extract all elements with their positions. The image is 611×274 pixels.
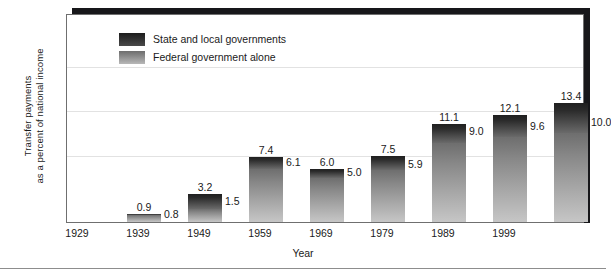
bar-1929 [127,214,161,222]
x-tick-label-1999: 1999 [474,227,534,239]
bar-segment-federal-1999 [554,133,588,222]
bar-total-label-1949: 7.4 [236,144,296,156]
bars-layer: 0.9 0.8 3.2 1.5 7.4 6.1 6.0 5.0 [67,15,583,222]
bar-segment-state-1949 [249,157,283,169]
x-tick-label-1929: 1929 [47,227,107,239]
bar-segment-federal-1949 [249,169,283,222]
x-tick-label-1969: 1969 [291,227,351,239]
x-tick-label-1979: 1979 [352,227,412,239]
y-axis-title-line2: as a percent of national income [34,26,46,206]
bar-segment-state-1969 [371,156,405,170]
x-tick-label-1989: 1989 [413,227,473,239]
bar-federal-label-1969: 5.9 [408,158,423,170]
x-axis-title: Year [0,247,606,259]
bar-1959 [310,169,344,222]
bar-1969 [371,156,405,222]
bar-segment-state-1979 [432,124,466,143]
bar-segment-state-1939 [188,194,222,209]
bar-1999 [554,103,588,222]
bar-total-label-1969: 7.5 [358,143,418,155]
bar-1989 [493,115,527,222]
plot-area: 15.0 10 5 State and local governments Fe… [66,14,584,223]
bar-federal-label-1999: 10.0 [591,116,611,128]
bar-segment-federal-1929 [127,215,161,222]
bar-federal-label-1989: 9.6 [530,120,545,132]
bar-total-label-1979: 11.1 [419,111,479,123]
bar-segment-federal-1969 [371,170,405,222]
bar-federal-label-1939: 1.5 [225,195,240,207]
bar-1979 [432,124,466,222]
bottom-divider [0,268,606,269]
bar-segment-federal-1939 [188,209,222,222]
x-tick-label-1949: 1949 [169,227,229,239]
bar-total-label-1939: 3.2 [175,181,235,193]
bar-segment-state-1959 [310,169,344,178]
bar-segment-federal-1989 [493,137,527,222]
bar-federal-label-1979: 9.0 [469,125,484,137]
x-tick-label-1959: 1959 [230,227,290,239]
x-tick-label-1939: 1939 [108,227,168,239]
bar-total-label-1989: 12.1 [480,102,540,114]
bar-federal-label-1929: 0.8 [164,208,179,220]
bar-segment-state-1999 [554,103,588,133]
bar-segment-federal-1979 [432,143,466,222]
bar-total-label-1999: 13.4 [541,90,601,102]
bar-segment-federal-1959 [310,178,344,222]
bar-1939 [188,194,222,222]
bar-1949 [249,157,283,222]
y-axis-title: Transfer payments as a percent of nation… [22,26,46,206]
bar-federal-label-1959: 5.0 [347,166,362,178]
y-axis-title-line1: Transfer payments [22,26,34,206]
bar-segment-state-1989 [493,115,527,137]
